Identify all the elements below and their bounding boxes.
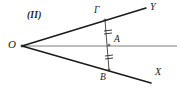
tick-marks-a-b: [105, 55, 113, 59]
label-point-a: A: [114, 35, 120, 45]
geometry-figure: (II) O Γ A B Y X: [0, 0, 180, 89]
point-a-marker: [108, 44, 110, 46]
label-point-b: B: [100, 73, 106, 83]
label-vertex-o: O: [8, 39, 16, 50]
panel-label: (II): [27, 11, 42, 21]
label-point-gamma: Γ: [94, 6, 99, 16]
ray-ox: [22, 46, 151, 83]
tick-marks-gamma-a: [104, 30, 112, 34]
label-ray-x: X: [155, 67, 161, 77]
label-ray-y: Y: [150, 2, 156, 12]
